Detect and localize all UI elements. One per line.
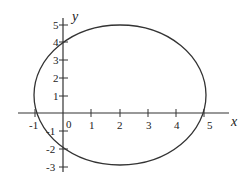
x-tick-label: 2 bbox=[117, 119, 123, 131]
y-tick-label: -2 bbox=[46, 143, 55, 155]
y-axis-label: y bbox=[70, 9, 79, 24]
y-tick-label: -1 bbox=[46, 125, 55, 137]
y-tick-label: 5 bbox=[53, 19, 59, 31]
y-tick-label: 4 bbox=[53, 36, 59, 48]
y-tick-label: -3 bbox=[46, 161, 56, 173]
x-tick-label: -1 bbox=[29, 119, 38, 131]
chart: -1 0 1 2 3 4 5 5 4 3 2 1 -1 -2 -3 x y bbox=[0, 0, 249, 184]
x-tick-label: 3 bbox=[146, 119, 152, 131]
x-tick-label: 0 bbox=[66, 118, 72, 130]
y-tick-label: 1 bbox=[53, 90, 59, 102]
ellipse-curve bbox=[34, 25, 206, 165]
x-axis-label: x bbox=[230, 114, 238, 129]
y-tick-label: 3 bbox=[53, 54, 59, 66]
x-tick-label: 5 bbox=[207, 119, 213, 131]
x-tick-label: 4 bbox=[174, 119, 180, 131]
y-tick-label: 2 bbox=[53, 72, 59, 84]
x-tick-label: 1 bbox=[89, 119, 95, 131]
